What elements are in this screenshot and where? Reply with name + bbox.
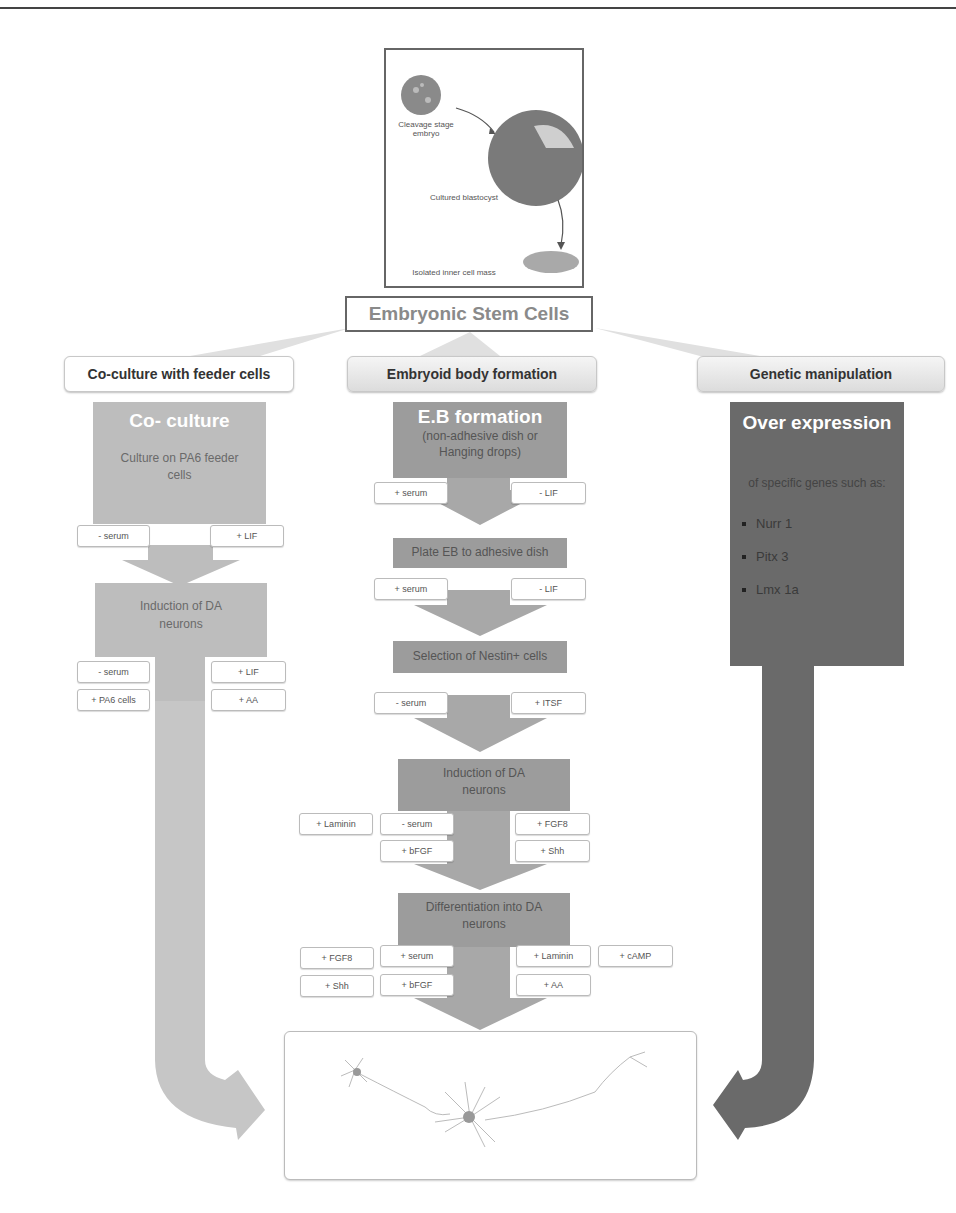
branch-coculture: Co-culture with feeder cells [64,356,294,392]
factor-pill: - serum [374,692,448,714]
stage-text: Selection of Nestin+ cells [413,649,547,663]
embryo-drawing-icon [386,50,582,286]
connector-coculture [190,328,350,356]
factor-pill: + bFGF [380,840,454,862]
genetic-curved-arrow [713,666,814,1140]
coculture-curved-arrow [155,700,265,1140]
bullet-icon [742,588,746,592]
gene-item: Lmx 1a [742,582,904,597]
factor-pill: - serum [380,813,454,835]
root-node: Embryonic Stem Cells [345,296,593,332]
factor-pill: + AA [211,689,286,711]
bullet-icon [742,555,746,559]
factor-pill: + serum [380,945,454,967]
stage-heading: Co- culture [129,410,229,432]
factor-pill: + FGF8 [300,947,374,969]
factor-pill: + PA6 cells [77,689,150,711]
branch-embryoid-body: Embryoid body formation [347,356,597,392]
connector-eb [420,332,500,356]
eb-stage-4: Induction of DA neurons [398,759,570,811]
dopaminergic-neuron-box [284,1031,697,1180]
branch-genetic: Genetic manipulation [697,356,945,392]
blastocyst-illustration: Cleavage stage embryo Cultured blastocys… [384,48,584,288]
gene-list: Nurr 1 Pitx 3 Lmx 1a [730,516,904,597]
blastocyst-label: Cultured blastocyst [414,193,514,202]
factor-pill: + Shh [300,975,374,997]
coculture-stage-1: Co- culture Culture on PA6 feeder cells [93,402,266,524]
coculture-stage-2: Induction of DA neurons [95,583,267,657]
eb-stage-3: Selection of Nestin+ cells [393,641,567,673]
gene-item: Pitx 3 [742,549,904,564]
genetic-stage: Over expression of specific genes such a… [730,402,904,666]
factor-pill: + ITSF [511,692,586,714]
factor-pill: - serum [77,525,150,547]
factor-pill: + AA [516,974,591,996]
coculture-arrow-stem [155,657,205,701]
stage-heading: Over expression [730,412,904,434]
cleavage-label: Cleavage stage embryo [391,120,461,138]
factor-pill: + FGF8 [515,813,590,835]
factor-pill: + Shh [515,840,590,862]
stage-text: of specific genes such as: [730,474,904,492]
neuron-icon [285,1032,696,1179]
factor-pill: + bFGF [380,974,454,996]
gene-item: Nurr 1 [742,516,904,531]
factor-pill: + serum [374,482,448,504]
bullet-icon [742,522,746,526]
factor-pill: + serum [374,578,448,600]
stage-text: Induction of DA neurons [398,765,570,799]
stage-heading: E.B formation [418,406,543,428]
factor-pill: + LIF [210,525,284,547]
stage-text: Plate EB to adhesive dish [412,545,549,559]
factor-pill: - serum [77,661,150,683]
factor-pill: + Laminin [516,945,591,967]
connector-genetic [595,328,760,356]
eb-stage-1: E.B formation (non-adhesive dish or Hang… [393,402,567,478]
stage-text: (non-adhesive dish or Hanging drops) [393,428,567,460]
stage-text: Induction of DA neurons [95,597,267,633]
icm-label: Isolated inner cell mass [394,268,514,277]
stage-text: Culture on PA6 feeder cells [93,450,266,484]
factor-pill: + LIF [211,661,286,683]
factor-pill: + cAMP [598,945,673,967]
factor-pill: - LIF [511,578,586,600]
stage-text: Differentiation into DA neurons [398,899,570,933]
eb-stage-5: Differentiation into DA neurons [398,893,570,947]
factor-pill: - LIF [511,482,586,504]
factor-pill: + Laminin [299,813,373,835]
eb-stage-2: Plate EB to adhesive dish [393,538,567,568]
